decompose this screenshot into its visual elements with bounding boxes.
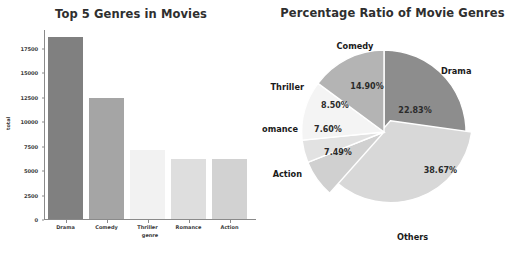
- x-tick-mark-action: [230, 220, 231, 223]
- pie-label-comedy: Comedy: [337, 41, 375, 51]
- y-axis-line: [44, 30, 45, 220]
- y-tick-label-7500: 7500: [24, 144, 44, 150]
- bar-thriller[interactable]: [130, 150, 165, 219]
- x-tick-label-comedy: Comedy: [95, 224, 118, 230]
- x-tick-mark-romance: [189, 220, 190, 223]
- bar-chart-title: Top 5 Genres in Movies: [0, 7, 262, 21]
- pie-chart-panel: Percentage Ratio of Movie Genres 38.67%: [262, 0, 523, 258]
- pie-value-action: 7.49%: [324, 148, 352, 157]
- pie-plot-area: 38.67% 22.83% 7.49% 7.60% 8.50% 14.90% D…: [262, 22, 523, 252]
- pie-label-action: Action: [273, 169, 303, 179]
- pie-value-drama: 22.83%: [398, 106, 431, 115]
- bar-chart-x-axis-label: genre: [44, 232, 256, 238]
- bar-plot-area: 0 2500 5000 7500 10000 12500 15000 17500: [44, 30, 256, 220]
- pie-value-others: 38.67%: [424, 166, 457, 175]
- bar-action[interactable]: [212, 159, 247, 219]
- x-axis-line: [44, 219, 256, 220]
- x-tick-label-action: Action: [221, 224, 239, 230]
- y-tick-label-12500: 12500: [20, 95, 44, 101]
- y-tick-label-10000: 10000: [20, 119, 44, 125]
- x-tick-label-drama: Drama: [56, 224, 75, 230]
- bar-drama[interactable]: [48, 37, 83, 219]
- pie-value-comedy: 14.90%: [350, 82, 383, 91]
- pie-label-thriller: Thriller: [271, 82, 305, 92]
- x-tick-mark-comedy: [107, 220, 108, 223]
- pie-label-drama: Drama: [441, 66, 471, 76]
- pie-value-thriller: 8.50%: [321, 101, 349, 110]
- bar-chart-panel: Top 5 Genres in Movies total 0 2500 5000…: [0, 0, 262, 258]
- pie-chart-title: Percentage Ratio of Movie Genres: [262, 6, 523, 20]
- y-tick-label-0: 0: [34, 217, 44, 223]
- pie-value-romance: 7.60%: [314, 125, 342, 134]
- bar-chart-y-axis-label: total: [5, 117, 11, 130]
- pie-label-romance: Romance: [262, 124, 298, 134]
- y-tick-label-17500: 17500: [20, 46, 44, 52]
- bar-romance[interactable]: [171, 159, 206, 219]
- x-tick-mark-drama: [66, 220, 67, 223]
- figure-canvas: Top 5 Genres in Movies total 0 2500 5000…: [0, 0, 523, 258]
- x-tick-mark-thriller: [148, 220, 149, 223]
- x-tick-label-romance: Romance: [176, 224, 202, 230]
- bar-comedy[interactable]: [89, 98, 124, 219]
- pie-svg: 38.67% 22.83% 7.49% 7.60% 8.50% 14.90% D…: [262, 22, 523, 252]
- y-tick-label-2500: 2500: [24, 193, 44, 199]
- y-tick-label-15000: 15000: [20, 70, 44, 76]
- y-tick-label-5000: 5000: [24, 168, 44, 174]
- x-tick-label-thriller: Thriller: [137, 224, 157, 230]
- pie-label-others: Others: [397, 232, 428, 242]
